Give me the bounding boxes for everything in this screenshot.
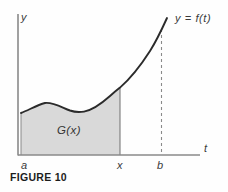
function-curve [21, 18, 167, 113]
tick-label-a: a [21, 160, 27, 171]
t-axis-label: t [204, 143, 207, 154]
region-label-gx: G(x) [57, 125, 81, 137]
figure-graphic [0, 0, 228, 192]
figure-container: y t y = f(t) a x b G(x) FIGURE 10 [0, 0, 228, 192]
figure-caption: FIGURE 10 [10, 172, 67, 183]
tick-label-b: b [157, 160, 163, 171]
shaded-region-gx [21, 88, 120, 155]
curve-equation-label: y = f(t) [175, 13, 211, 24]
y-axis-label: y [21, 12, 27, 23]
tick-label-x: x [117, 160, 123, 171]
